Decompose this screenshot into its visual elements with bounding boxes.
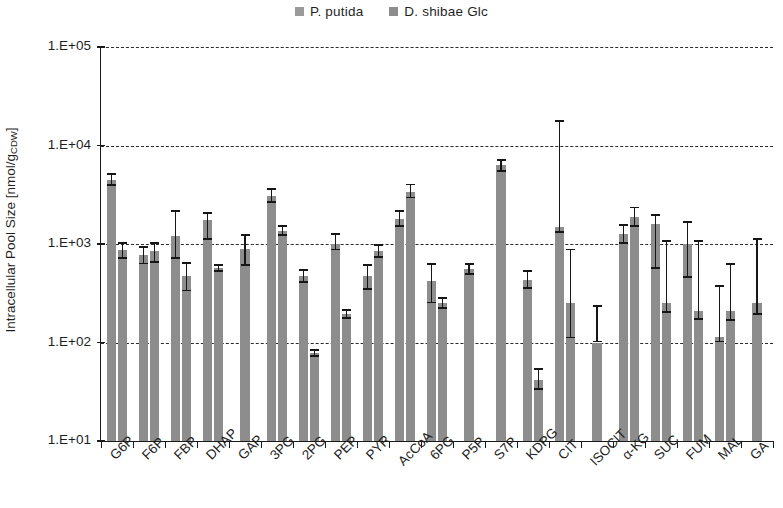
error-bar-cap <box>593 341 602 343</box>
error-bar <box>538 368 540 390</box>
legend-label-p-putida: P. putida <box>310 4 363 19</box>
error-bar-cap <box>139 263 148 265</box>
error-bar-cap <box>534 388 543 390</box>
x-axis-tick-mark <box>357 441 358 448</box>
error-bar-cap <box>465 263 474 265</box>
x-axis-tick-mark <box>741 441 742 448</box>
error-bar <box>244 234 246 265</box>
legend-entry-p-putida: P. putida <box>295 4 363 19</box>
error-bar-cap <box>342 309 351 311</box>
error-bar-cap <box>299 269 308 271</box>
x-axis-tick-mark <box>613 441 614 448</box>
error-bar-cap <box>619 224 628 226</box>
error-bar <box>154 242 156 263</box>
bar-pyr-series1 <box>363 276 373 441</box>
x-axis-tick-mark <box>549 441 550 448</box>
error-bar <box>175 210 177 259</box>
error-bar-cap <box>203 212 212 214</box>
error-bar-cap <box>715 285 724 287</box>
bar-kdpg-series1 <box>523 280 533 441</box>
error-bar-cap <box>150 261 159 263</box>
error-bar-cap <box>203 238 212 240</box>
error-bar-cap <box>497 170 506 172</box>
error-bar-cap <box>363 288 372 290</box>
error-bar <box>655 214 657 268</box>
x-axis-tick-mark <box>453 441 454 448</box>
bar-dhap-series1 <box>203 220 213 441</box>
bar-mal-series1 <box>715 337 725 441</box>
error-bar <box>634 207 636 227</box>
error-bar <box>143 246 145 265</box>
error-bar-cap <box>753 313 762 315</box>
x-axis-tick-mark <box>229 441 230 448</box>
bar-fbp-series1 <box>171 236 181 441</box>
error-bar-cap <box>726 319 735 321</box>
x-axis-tick-mark <box>389 441 390 448</box>
bar-accoa-series2 <box>406 192 416 441</box>
x-axis-tick-mark <box>581 441 582 448</box>
bar-chart: P. putida D. shibae Glc Intracellular Po… <box>0 0 783 508</box>
bar-pep-series2 <box>342 314 352 441</box>
error-bar-cap <box>363 264 372 266</box>
bar-ga-series1 <box>752 303 762 441</box>
bar--kg-series2 <box>630 217 640 441</box>
error-bar-cap <box>555 231 564 233</box>
error-bar <box>687 221 689 278</box>
error-bar-cap <box>331 233 340 235</box>
error-bar-cap <box>438 307 447 309</box>
error-bar-cap <box>534 368 543 370</box>
error-bar-cap <box>171 257 180 259</box>
error-bar-cap <box>694 240 703 242</box>
y-axis-tick-label: 1.E+04 <box>48 137 91 152</box>
error-bar <box>367 264 369 290</box>
error-bar-cap <box>182 290 191 292</box>
x-axis-tick-mark <box>773 441 774 448</box>
error-bar-cap <box>118 257 127 259</box>
bar-pyr-series2 <box>374 251 384 441</box>
error-bar-cap <box>241 234 250 236</box>
error-bar-cap <box>171 210 180 212</box>
error-bar-cap <box>593 305 602 307</box>
legend-swatch-p-putida <box>295 7 304 16</box>
x-axis-tick-mark <box>165 441 166 448</box>
error-bar <box>431 263 433 303</box>
error-bar-cap <box>523 287 532 289</box>
error-bar-cap <box>278 225 287 227</box>
error-bar-cap <box>662 311 671 313</box>
x-axis-tick-mark <box>645 441 646 448</box>
bar-3pg-series2 <box>278 231 288 441</box>
y-axis-title: Intracellular Pool Size [nmol/gCDW] <box>0 0 24 460</box>
error-bar-cap <box>523 270 532 272</box>
bar-f6p-series2 <box>150 251 160 441</box>
error-bar-cap <box>395 225 404 227</box>
bar-3pg-series1 <box>267 196 277 441</box>
error-bar-cap <box>278 234 287 236</box>
x-axis-tick-mark <box>261 441 262 448</box>
error-bar-cap <box>497 159 506 161</box>
error-bar-cap <box>214 264 223 266</box>
error-bar <box>596 305 598 342</box>
bar-6pg-series2 <box>438 303 448 441</box>
error-bar-cap <box>150 242 159 244</box>
error-bar-cap <box>427 263 436 265</box>
error-bar-cap <box>395 210 404 212</box>
error-bar <box>559 120 561 232</box>
bar-f6p-series1 <box>139 255 149 441</box>
bar-isocit-series1 <box>592 343 602 442</box>
x-axis-tick-mark <box>101 441 102 448</box>
error-bar <box>756 238 758 315</box>
error-bar <box>527 270 529 289</box>
error-bar <box>698 240 700 320</box>
x-axis-tick-mark <box>421 441 422 448</box>
error-bar-cap <box>715 341 724 343</box>
error-bar-cap <box>694 318 703 320</box>
error-bar-cap <box>214 270 223 272</box>
error-bar-cap <box>374 256 383 258</box>
error-bar-cap <box>427 302 436 304</box>
bar-accoa-series1 <box>395 219 405 441</box>
bar-dhap-series2 <box>214 268 224 441</box>
error-bar-cap <box>630 225 639 227</box>
error-bar-cap <box>299 281 308 283</box>
error-bar <box>207 212 209 240</box>
bar-g6p-series1 <box>107 180 117 441</box>
